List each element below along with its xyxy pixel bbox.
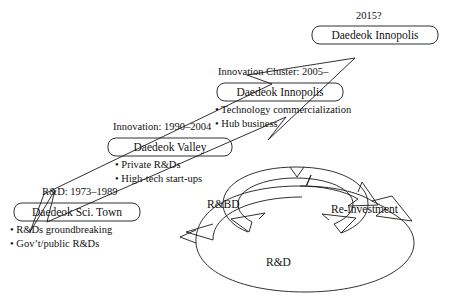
outer-cycle-tail-notch — [180, 230, 196, 243]
box-label-innopolis: Daedeok Innopolis — [217, 86, 343, 98]
inner-cycle-tail-notch — [290, 167, 304, 177]
inner-cycle-arrowhead-right — [322, 214, 356, 233]
outer-cycle-arrowhead-top — [306, 175, 311, 186]
bullet-valley-1: • Private R&Ds — [115, 159, 181, 170]
stage-box-innopolis[interactable]: Daedeok Innopolis — [217, 83, 343, 101]
outer-cycle-arc-bottom — [196, 209, 414, 292]
stage-box-future[interactable]: Daedeok Innopolis — [312, 26, 438, 44]
bullet-sci-town-1: • R&Ds groundbreaking — [10, 224, 112, 235]
diagram-canvas: R&D: 1973–1989 Daedeok Sci. Town • R&Ds … — [0, 0, 455, 300]
inner-cycle-arc — [223, 167, 368, 233]
era-label-innopolis: Innovation Cluster: 2005– — [218, 66, 328, 77]
inner-cycle-arc-inner — [238, 178, 353, 224]
cycle-label-rnbd: R&BD — [207, 198, 240, 210]
bullet-sci-town-2: • Gov’t/public R&Ds — [10, 238, 99, 249]
box-label-sci-town: Daedeok Sci. Town — [14, 206, 140, 218]
stage-box-sci-town[interactable]: Daedeok Sci. Town — [14, 203, 140, 221]
box-label-future: Daedeok Innopolis — [312, 29, 438, 41]
bullet-innopolis-1: • Technology commercialization — [215, 104, 351, 115]
inner-cycle-arrowhead-left — [231, 213, 265, 232]
era-label-future: 2015? — [356, 10, 382, 21]
bullet-valley-2: • High-tech start-ups — [115, 173, 202, 184]
box-label-valley: Daedeok Valley — [108, 141, 232, 153]
cycle-label-rnd: R&D — [266, 256, 291, 268]
era-label-sci-town: R&D: 1973–1989 — [42, 186, 118, 197]
bullet-innopolis-2: • Hub business — [215, 118, 278, 129]
cycle-label-reinvestment: Re-investment — [331, 203, 398, 215]
stage-box-valley[interactable]: Daedeok Valley — [108, 138, 232, 156]
era-label-valley: Innovation: 1990–2004 — [113, 121, 211, 132]
outer-cycle-tail-notch2 — [186, 224, 213, 240]
